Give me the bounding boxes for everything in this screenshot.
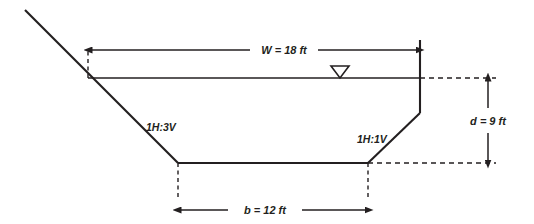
dimension-depth: d = 9 ft bbox=[470, 81, 507, 160]
water-surface-triangle-icon bbox=[331, 66, 349, 78]
right-slope-label: 1H:1V bbox=[357, 133, 388, 145]
channel-drawing: W = 18 ft b = 12 ft d = 9 ft 1H:3V 1H:1V bbox=[0, 0, 534, 224]
channel-cross-section-diagram: W = 18 ft b = 12 ft d = 9 ft 1H:3V 1H:1V bbox=[0, 0, 534, 224]
dimension-bottom-width-label: b = 12 ft bbox=[244, 204, 287, 216]
dimension-top-width: W = 18 ft bbox=[92, 44, 416, 56]
left-slope-label: 1H:3V bbox=[146, 121, 177, 133]
dimension-depth-label: d = 9 ft bbox=[470, 115, 507, 127]
dimension-bottom-width: b = 12 ft bbox=[181, 204, 365, 216]
left-bank-line bbox=[25, 10, 178, 163]
dimension-top-width-label: W = 18 ft bbox=[261, 44, 308, 56]
